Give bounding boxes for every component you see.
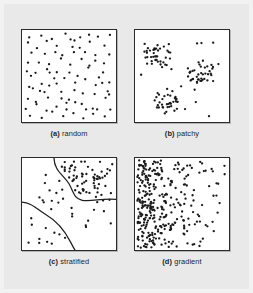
data-point — [51, 200, 53, 202]
data-point — [161, 177, 163, 179]
data-point — [98, 76, 100, 78]
data-point — [71, 215, 73, 217]
data-point — [96, 201, 98, 203]
data-point — [206, 79, 208, 81]
data-point — [168, 106, 170, 108]
data-point — [70, 165, 72, 167]
data-point — [174, 221, 176, 223]
data-point — [150, 56, 152, 58]
data-point — [46, 68, 48, 70]
data-point — [189, 79, 191, 81]
data-point — [145, 178, 147, 180]
data-point — [179, 203, 181, 205]
data-point — [154, 233, 156, 235]
data-point — [100, 170, 102, 172]
data-point — [194, 223, 196, 225]
data-point — [69, 64, 71, 66]
data-point — [186, 242, 188, 244]
figure-root: (a) random (b) patchy — [0, 0, 253, 293]
data-point — [39, 90, 41, 92]
data-point — [29, 115, 31, 117]
data-point — [142, 165, 144, 167]
data-point — [208, 115, 210, 117]
data-point — [142, 180, 144, 182]
data-point — [46, 40, 48, 42]
data-point — [198, 172, 200, 174]
data-point — [159, 163, 161, 165]
data-point — [151, 60, 153, 62]
data-point — [51, 111, 53, 113]
data-point — [144, 165, 146, 167]
data-point — [81, 103, 83, 105]
data-point — [43, 91, 45, 93]
data-point — [204, 66, 206, 68]
data-point — [171, 90, 173, 92]
data-point — [48, 84, 50, 86]
data-point — [146, 207, 148, 209]
data-point — [190, 204, 192, 206]
data-point — [96, 191, 98, 193]
data-point — [104, 185, 106, 187]
data-point — [71, 180, 73, 182]
data-point — [92, 107, 94, 109]
data-point — [159, 232, 161, 234]
data-point — [87, 166, 89, 168]
data-point — [204, 72, 206, 74]
data-point — [34, 72, 36, 74]
data-point — [141, 231, 143, 233]
data-point — [149, 210, 151, 212]
data-point — [73, 89, 75, 91]
data-point — [148, 198, 150, 200]
data-point — [92, 176, 94, 178]
data-point — [109, 34, 111, 36]
data-point — [80, 58, 82, 60]
panel-grid: (a) random (b) patchy — [4, 4, 249, 289]
dot-layer-random — [25, 33, 112, 120]
data-point — [61, 189, 63, 191]
data-point — [139, 221, 141, 223]
data-point — [146, 221, 148, 223]
data-point — [200, 80, 202, 82]
data-point — [137, 238, 139, 240]
data-point — [192, 199, 194, 201]
data-point — [184, 198, 186, 200]
data-point — [169, 183, 171, 185]
data-point — [93, 185, 95, 187]
data-point — [143, 221, 145, 223]
data-point — [95, 84, 97, 86]
data-point — [191, 70, 193, 72]
data-point — [168, 241, 170, 243]
data-point — [151, 209, 153, 211]
data-point — [167, 94, 169, 96]
data-point — [157, 104, 159, 106]
data-point — [100, 194, 102, 196]
data-point — [172, 224, 174, 226]
data-point — [85, 226, 87, 228]
data-point — [159, 63, 161, 65]
data-point — [143, 218, 145, 220]
data-point — [160, 160, 162, 162]
data-point — [80, 161, 82, 163]
data-point — [197, 78, 199, 80]
data-point — [162, 61, 164, 63]
data-point — [202, 237, 204, 239]
data-point — [27, 41, 29, 43]
data-point — [152, 242, 154, 244]
data-point — [199, 161, 201, 163]
data-point — [163, 185, 165, 187]
data-point — [79, 36, 81, 38]
data-point — [170, 197, 172, 199]
data-point — [96, 187, 98, 189]
data-point — [159, 47, 161, 49]
data-point — [156, 167, 158, 169]
data-point — [174, 164, 176, 166]
data-point — [161, 104, 163, 106]
data-point — [176, 218, 178, 220]
data-point — [96, 108, 98, 110]
data-point — [50, 208, 52, 210]
data-point — [173, 168, 175, 170]
data-point — [200, 72, 202, 74]
data-point — [184, 183, 186, 185]
data-point — [158, 218, 160, 220]
data-point — [181, 169, 183, 171]
